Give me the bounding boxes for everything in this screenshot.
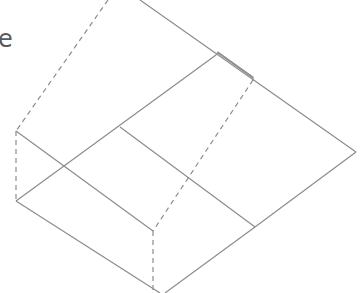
solid-edge bbox=[165, 227, 255, 293]
hidden-edge bbox=[153, 80, 253, 231]
solid-edge bbox=[120, 127, 255, 227]
solid-edge bbox=[16, 131, 153, 231]
isometric-box-diagram bbox=[0, 0, 364, 293]
solid-edge bbox=[16, 55, 216, 201]
hidden-edge bbox=[16, 0, 108, 131]
solid-edge bbox=[218, 53, 253, 78]
solid-edge bbox=[140, 0, 356, 152]
solid-edge bbox=[16, 201, 160, 293]
solid-edge bbox=[255, 152, 356, 227]
